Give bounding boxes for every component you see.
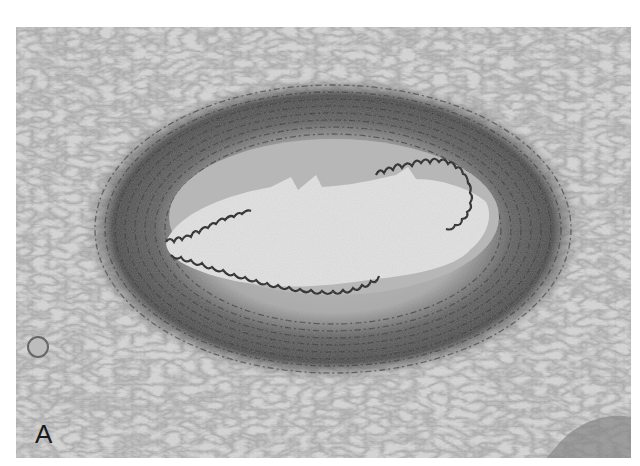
panel-label: A — [35, 421, 52, 447]
artery-cross-section-image — [16, 27, 631, 458]
histology-micrograph: A — [16, 27, 631, 458]
